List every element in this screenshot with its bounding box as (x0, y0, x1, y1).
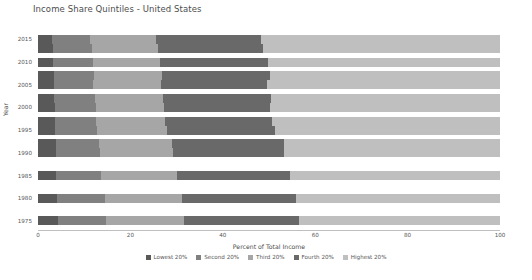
legend-swatch-icon (343, 255, 348, 260)
bar-segment (165, 117, 272, 126)
x-tick-label: 0 (36, 232, 40, 238)
bar-segment (54, 71, 94, 80)
bar-segment (38, 103, 55, 112)
bar-segment (182, 194, 296, 203)
bar-segment (275, 126, 500, 135)
legend-item[interactable]: Fourth 20% (294, 254, 334, 260)
legend-label: Lowest 20% (154, 254, 188, 260)
bar-row (38, 171, 500, 180)
bar-segment (53, 58, 92, 67)
bar-segment (160, 58, 268, 67)
bar-row (38, 71, 500, 80)
bar-segment (56, 139, 99, 148)
bar-row (38, 58, 500, 67)
bar-segment (184, 216, 298, 225)
bar-segment (177, 171, 291, 180)
bar-segment (100, 148, 173, 157)
bar-row (38, 126, 500, 135)
legend-item[interactable]: Lowest 20% (146, 254, 188, 260)
bar-segment (284, 148, 500, 157)
legend-swatch-icon (146, 255, 151, 260)
legend-item[interactable]: Highest 20% (343, 254, 387, 260)
bar-segment (101, 171, 176, 180)
bar-segment (156, 35, 260, 44)
y-tick-label: 1990 (18, 150, 32, 156)
x-axis-title: Percent of Total Income (38, 243, 500, 250)
bar-segment (58, 216, 106, 225)
bar-segment (271, 94, 500, 103)
bar-segment (158, 44, 263, 53)
bar-segment (52, 35, 90, 44)
x-axis-line (38, 230, 500, 231)
bar-segment (38, 171, 56, 180)
bar-row (38, 44, 500, 53)
bar-row (38, 35, 500, 44)
legend-label: Fourth 20% (302, 254, 334, 260)
bar-segment (99, 139, 172, 148)
y-axis-tick-labels: 201520102005200019951990198519801975 (0, 28, 36, 230)
bar-segment (267, 80, 500, 89)
bar-segment (55, 126, 97, 135)
bar-segment (93, 80, 160, 89)
bar-segment (38, 126, 55, 135)
legend-label: Second 20% (204, 254, 239, 260)
bar-segment (299, 216, 500, 225)
bar-segment (270, 103, 500, 112)
bar-segment (95, 94, 163, 103)
bar-row (38, 117, 500, 126)
chart-title: Income Share Quintiles - United States (33, 4, 202, 14)
bar-segment (55, 103, 96, 112)
y-tick-label: 1980 (18, 195, 32, 201)
bar-segment (55, 117, 96, 126)
bar-segment (38, 139, 56, 148)
bar-segment (263, 44, 500, 53)
bar-segment (92, 44, 159, 53)
bar-segment (53, 44, 92, 53)
bar-segment (164, 103, 270, 112)
bar-segment (54, 80, 94, 89)
bar-segment (167, 126, 275, 135)
bar-segment (173, 148, 284, 157)
bar-segment (161, 80, 267, 89)
x-tick-label: 20 (127, 232, 134, 238)
legend-swatch-icon (294, 255, 299, 260)
y-tick-label: 2000 (18, 104, 32, 110)
legend-label: Third 20% (256, 254, 284, 260)
bar-segment (54, 94, 95, 103)
bar-segment (38, 71, 54, 80)
chart-legend: Lowest 20%Second 20%Third 20%Fourth 20%H… (0, 254, 532, 260)
legend-swatch-icon (196, 255, 201, 260)
legend-item[interactable]: Second 20% (196, 254, 239, 260)
bar-segment (162, 71, 270, 80)
y-tick-label: 2005 (18, 82, 32, 88)
x-tick-label: 40 (219, 232, 226, 238)
bar-row (38, 94, 500, 103)
bar-row (38, 103, 500, 112)
bar-segment (96, 103, 164, 112)
y-tick-label: 1975 (18, 218, 32, 224)
bar-segment (38, 148, 56, 157)
bar-row (38, 148, 500, 157)
bar-segment (272, 117, 500, 126)
bar-segment (57, 194, 104, 203)
y-tick-label: 1995 (18, 127, 32, 133)
bar-segment (268, 58, 500, 67)
x-tick-label: 100 (495, 232, 506, 238)
bar-segment (56, 148, 100, 157)
bar-row (38, 80, 500, 89)
bar-row (38, 194, 500, 203)
bar-segment (38, 58, 53, 67)
y-tick-label: 1985 (18, 173, 32, 179)
bar-segment (96, 117, 165, 126)
bar-segment (90, 35, 156, 44)
bar-segment (97, 126, 167, 135)
bar-segment (163, 94, 271, 103)
bar-segment (38, 194, 57, 203)
bar-segment (105, 194, 183, 203)
bar-segment (270, 71, 500, 80)
bar-segment (106, 216, 185, 225)
legend-item[interactable]: Third 20% (248, 254, 284, 260)
bar-segment (38, 80, 54, 89)
bar-segment (284, 139, 500, 148)
bar-segment (38, 117, 55, 126)
